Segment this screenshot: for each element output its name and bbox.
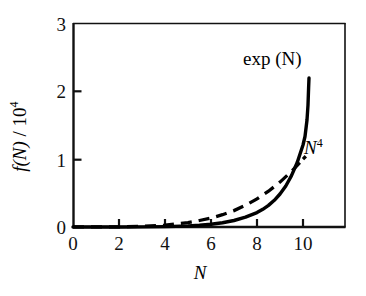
x-tick-label-8: 8 <box>252 234 262 253</box>
y-tick-label-0: 0 <box>48 218 66 237</box>
y-axis-title: f(N) / 104 <box>7 82 30 192</box>
y-tick-label-3: 3 <box>48 15 66 34</box>
axis-frame <box>73 23 346 228</box>
x-tick-label-4: 4 <box>160 234 170 253</box>
y-axis-title-exponent: 4 <box>7 101 21 107</box>
x-tick-label-6: 6 <box>206 234 216 253</box>
x-tick-label-10: 10 <box>294 234 313 253</box>
annotation-power-curve: N4 <box>304 136 323 159</box>
figure-chart-exponential-vs-power: 0 2 4 6 8 10 0 1 2 3 N f(N) / 104 exp (N… <box>0 0 366 296</box>
y-tick-label-1: 1 <box>48 151 66 170</box>
y-axis-title-middle: / 10 <box>9 107 30 141</box>
x-axis-title: N <box>194 262 207 284</box>
annotation-power-base: N <box>304 137 317 158</box>
annotation-exp-curve: exp (N) <box>243 48 302 70</box>
x-tick-label-0: 0 <box>68 234 78 253</box>
curve-power-n4 <box>73 159 303 227</box>
curve-exponential <box>73 78 309 227</box>
y-axis-title-arg: (N) <box>9 141 30 166</box>
annotation-power-exponent: 4 <box>317 136 323 150</box>
y-axis-title-f: f <box>9 167 30 172</box>
x-tick-label-2: 2 <box>114 234 124 253</box>
y-tick-label-2: 2 <box>48 82 66 101</box>
